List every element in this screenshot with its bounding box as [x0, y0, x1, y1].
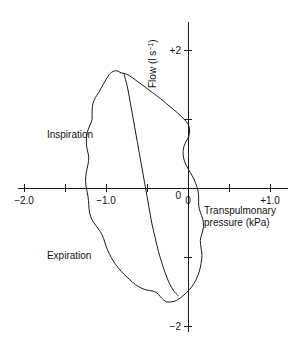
plot-annotations: Inspiration Expiration	[47, 129, 93, 261]
y-axis-tick-label: 0	[175, 190, 181, 201]
x-axis-group: −2.0−1.00+1.0	[14, 184, 288, 206]
inspiration-annotation: Inspiration	[47, 129, 93, 140]
inspiration-limb-path	[86, 71, 185, 302]
x-axis-tick-label: −1.0	[96, 195, 116, 206]
x-axis-title: Transpulmonary pressure (kPa)	[204, 205, 276, 228]
tidal-diagonal-path	[124, 74, 178, 295]
flow-pressure-chart: −2.0−1.00+1.0 +20−2 Inspiration Expirati…	[0, 0, 299, 342]
y-axis-title-text: Flow (l s−1)	[147, 39, 158, 88]
expiration-limb-path	[121, 73, 204, 294]
y-axis-group: +20−2	[170, 22, 192, 332]
y-axis-tick-label: +2	[170, 45, 182, 56]
chart-svg: −2.0−1.00+1.0 +20−2 Inspiration Expirati…	[0, 0, 299, 342]
x-axis-title-line2: pressure (kPa)	[204, 217, 270, 228]
x-axis-title-line1: Transpulmonary	[204, 205, 276, 216]
expiration-annotation: Expiration	[47, 250, 91, 261]
data-curves	[86, 71, 204, 302]
y-axis-title: Flow (l s−1)	[147, 39, 158, 88]
x-axis-tick-label: −2.0	[14, 195, 34, 206]
y-axis-tick-label: −2	[170, 321, 182, 332]
